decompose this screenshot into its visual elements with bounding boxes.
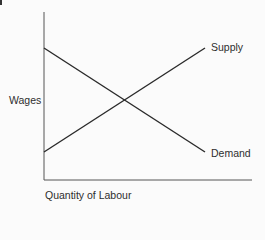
- demand-label: Demand: [211, 147, 251, 159]
- y-axis-label: Wages: [9, 94, 41, 106]
- supply-label: Supply: [211, 41, 243, 53]
- x-axis-label: Quantity of Labour: [45, 189, 131, 201]
